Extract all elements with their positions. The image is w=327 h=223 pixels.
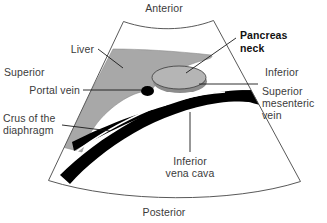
label-superior-mesenteric-vein-line2: mesenteric — [262, 97, 314, 109]
label-liver: Liver — [42, 43, 94, 55]
label-superior-mesenteric-vein-line3: vein — [262, 109, 282, 121]
label-crus-of-the-diaphragm-line2: diaphragm — [3, 124, 54, 136]
pancreas-neck-region — [152, 66, 207, 93]
pancreas-neck-body — [152, 66, 206, 89]
label-superior: Superior — [4, 66, 45, 78]
label-inferior-vena-cava-line2: vena cava — [152, 167, 228, 179]
label-crus-of-the-diaphragm-line1: Crus of the — [3, 112, 55, 124]
label-pancreas-neck-line2: neck — [240, 42, 264, 54]
label-superior-mesenteric-vein-line1: Superior — [262, 85, 303, 97]
label-inferior-vena-cava-line1: Inferior — [152, 155, 228, 167]
label-posterior: Posterior — [128, 206, 200, 218]
label-inferior: Inferior — [265, 66, 298, 78]
portal-vein-region — [141, 86, 154, 96]
label-anterior: Anterior — [128, 2, 200, 14]
label-portal-vein: Portal vein — [8, 84, 80, 96]
label-pancreas-neck-line1: Pancreas — [240, 29, 288, 41]
ultrasound-diagram-figure: Anterior Posterior Superior Inferior Liv… — [0, 0, 327, 223]
